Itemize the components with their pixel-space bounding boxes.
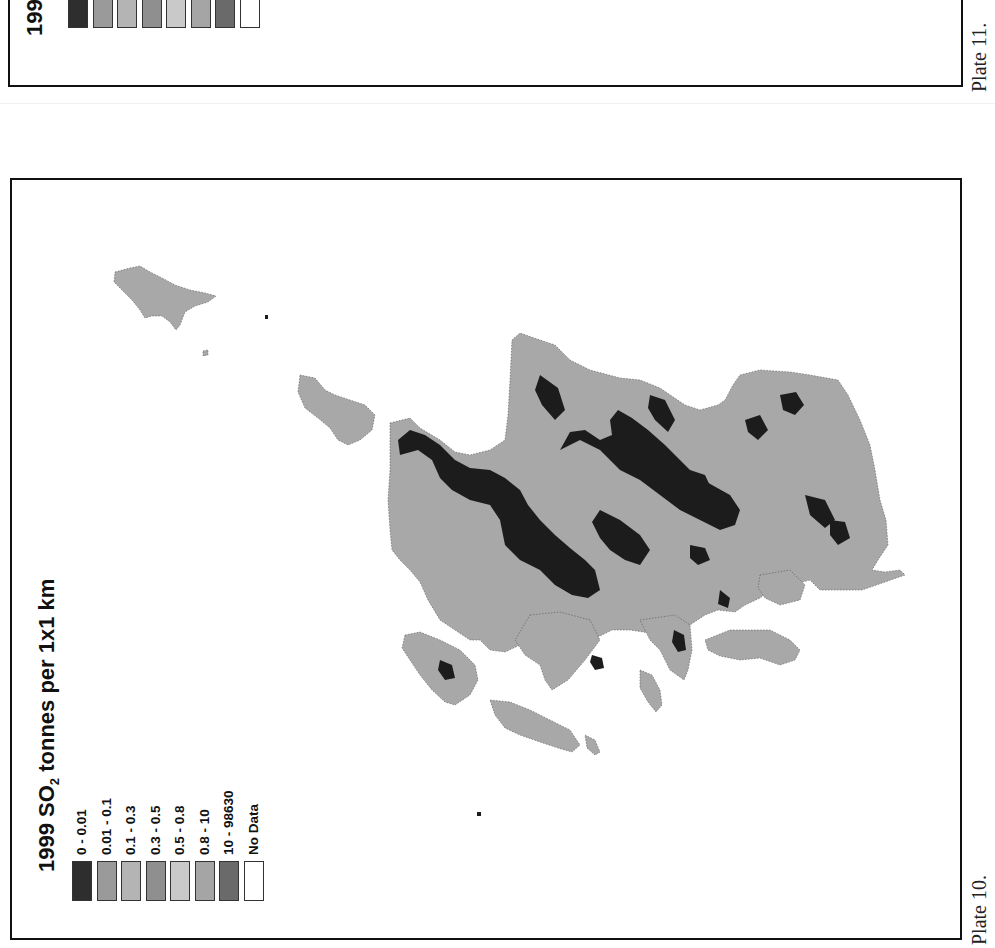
plate-10-label: Plate 10.	[968, 875, 991, 945]
so2-emission-map	[0, 0, 995, 948]
